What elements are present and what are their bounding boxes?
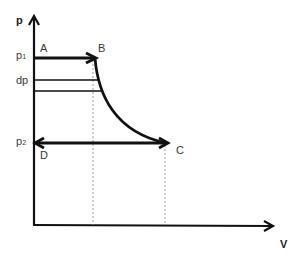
x-axis-label: V [280,239,287,250]
point-b-label: B [98,43,105,54]
point-d-label: D [40,150,48,161]
point-a-label: A [40,43,47,54]
p2-label-sub: 2 [22,139,26,146]
y-axis-label: p [16,15,23,26]
dp-label: dp [16,75,28,86]
expansion-curve-b-c [95,58,166,143]
x-axis [33,225,272,226]
pv-diagram: p V p1 dp p2 A B C D [0,0,301,261]
p1-label: p1 [16,50,26,62]
diagram-canvas [0,0,301,261]
p2-label: p2 [16,136,26,148]
p1-label-sub: 1 [22,53,26,60]
point-c-label: C [176,145,184,156]
